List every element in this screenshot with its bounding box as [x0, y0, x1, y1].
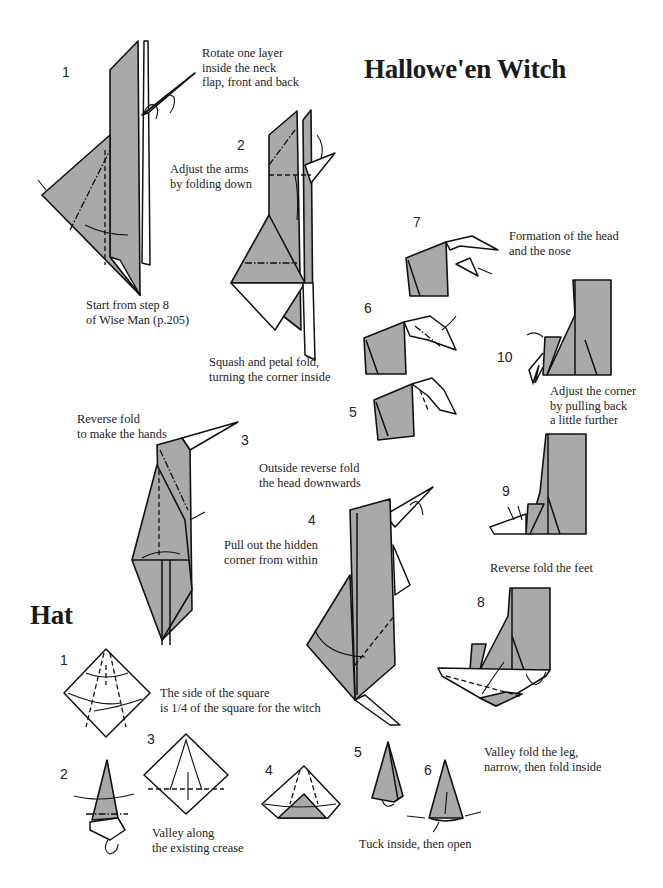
step-1-caption: Rotate one layer inside the neck flap, f… [202, 46, 299, 90]
hat-step-3-caption: Valley along the existing crease [152, 826, 244, 855]
step-10-caption: Adjust the corner by pulling back a litt… [550, 384, 636, 428]
step-5-number: 5 [349, 404, 357, 420]
hat-step-6-diagram [405, 758, 485, 838]
hat-step-1-caption: The side of the square is 1/4 of the squ… [160, 686, 321, 715]
start-note: Start from step 8 of Wise Man (p.205) [86, 298, 189, 327]
squash-note: Squash and petal fold, turning the corne… [209, 355, 330, 384]
step-3-number: 3 [241, 432, 249, 448]
step-2-diagram [225, 105, 340, 360]
hat-step-4-diagram [260, 764, 345, 824]
step-9-diagram [488, 432, 598, 542]
hat-step-2-number: 2 [60, 766, 68, 782]
hat-step-3-diagram [140, 730, 235, 820]
page-title: Hallowe'en Witch [364, 54, 566, 85]
step-8-caption: Valley fold the leg, narrow, then fold i… [484, 745, 602, 774]
hat-step-6-caption: Tuck inside, then open [359, 837, 471, 852]
hat-title: Hat [30, 600, 73, 631]
step-9-caption: Reverse fold the feet [490, 561, 593, 576]
step-5-diagram [370, 370, 480, 442]
step-3-diagram [130, 420, 242, 645]
step-6-diagram [360, 308, 470, 378]
step-10-number: 10 [497, 349, 513, 365]
step-8-diagram [436, 586, 561, 726]
step-7-diagram [400, 228, 500, 300]
hat-step-5-number: 5 [354, 744, 362, 760]
step-7-caption: Formation of the head and the nose [509, 229, 619, 258]
hat-step-1-diagram [60, 645, 155, 740]
step-10-diagram [525, 275, 620, 385]
hat-step-2-diagram [70, 758, 145, 858]
